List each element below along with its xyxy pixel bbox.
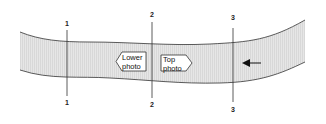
section-1-bottom-label: 1 (65, 99, 69, 106)
river-band (20, 20, 305, 83)
section-3-top-label: 3 (231, 14, 235, 21)
lower-photo-label: Lower photo (122, 53, 142, 71)
lower-photo-line1: Lower (122, 53, 142, 62)
top-photo-label: Top photo (163, 55, 182, 73)
section-2-top-label: 2 (150, 11, 154, 18)
top-photo-line2: photo (163, 64, 182, 73)
top-photo-line1: Top (163, 55, 182, 64)
section-2-bottom-label: 2 (150, 101, 154, 108)
section-3-bottom-label: 3 (231, 106, 235, 113)
section-1-top-label: 1 (65, 20, 69, 27)
lower-photo-line2: photo (122, 62, 142, 71)
